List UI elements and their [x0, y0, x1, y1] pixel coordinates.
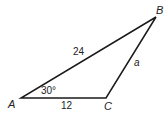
angle-label-a: 30°: [41, 85, 56, 96]
side-label-ac: 12: [61, 100, 73, 111]
vertex-label-c: C: [104, 100, 112, 112]
side-label-ab: 24: [73, 46, 85, 57]
side-label-bc: a: [134, 57, 140, 68]
vertex-label-a: A: [7, 98, 15, 110]
triangle-diagram: A B C 24 12 a 30°: [0, 0, 168, 114]
vertex-label-b: B: [156, 4, 163, 16]
